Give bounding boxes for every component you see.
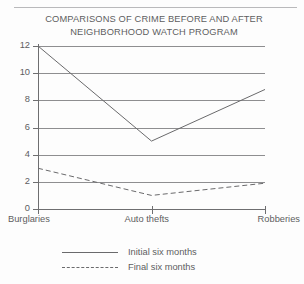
series-line-dashed <box>38 168 265 195</box>
legend-swatch-dashed-line-icon <box>62 267 118 269</box>
data-series-layer <box>0 0 304 284</box>
legend-label-initial: Initial six months <box>128 245 197 260</box>
legend-label-final: Final six months <box>128 260 195 275</box>
legend-swatch-solid-line-icon <box>62 252 118 253</box>
series-line-solid <box>38 46 265 141</box>
chart-figure: COMPARISONS OF CRIME BEFORE AND AFTER NE… <box>0 0 304 284</box>
